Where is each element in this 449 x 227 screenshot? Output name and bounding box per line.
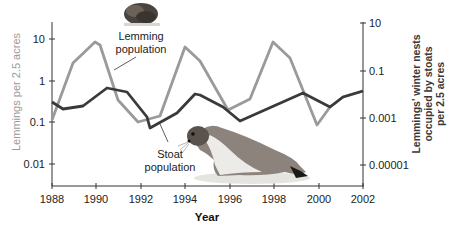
axes [49, 22, 366, 189]
lemming-label-line2: population [116, 43, 167, 55]
lemming-label-line1: Lemming [118, 30, 163, 42]
x-tick-labels: 1988 1990 1992 1994 1996 1998 2000 2002 [40, 193, 375, 205]
stoat-label-line1: Stoat [157, 148, 183, 160]
x-tick-2000: 2000 [307, 193, 331, 205]
right-y-axis-title: Lemmings' winter nests occupied by stoat… [410, 34, 446, 153]
left-y-tick-labels: 10 1 0.1 0.01 [24, 33, 45, 170]
stoat-label-line2: population [145, 161, 196, 173]
yl-tick-0.01: 0.01 [24, 158, 45, 170]
x-tick-1998: 1998 [262, 193, 286, 205]
x-tick-1994: 1994 [173, 193, 197, 205]
lemming-illustration [124, 3, 160, 26]
left-y-axis-title: Lemmings per 2.5 acres [10, 33, 22, 151]
right-y-tick-labels: 10 0.1 0.001 0.00001 [369, 17, 409, 171]
yl-tick-0.1: 0.1 [30, 116, 45, 128]
yr-tick-0.001: 0.001 [369, 112, 397, 124]
chart: 1988 1990 1992 1994 1996 1998 2000 2002 … [0, 0, 449, 227]
yl-tick-1: 1 [39, 75, 45, 87]
right-y-title-line3: per 2.5 acres [434, 62, 446, 126]
yr-tick-0.00001: 0.00001 [369, 159, 409, 171]
x-tick-1988: 1988 [40, 193, 64, 205]
right-y-title-line2: occupied by stoats [422, 46, 434, 141]
right-y-title-line1: Lemmings' winter nests [410, 34, 422, 153]
yr-tick-0.1: 0.1 [369, 65, 384, 77]
x-tick-1990: 1990 [84, 193, 108, 205]
x-tick-1992: 1992 [129, 193, 153, 205]
lemming-leader-line [114, 57, 136, 70]
x-tick-2002: 2002 [351, 193, 375, 205]
x-axis-title: Year [195, 211, 220, 223]
yr-tick-10: 10 [369, 17, 381, 29]
x-tick-1996: 1996 [218, 193, 242, 205]
stoat-leader-line [160, 124, 168, 142]
stoat-illustration [178, 126, 310, 184]
yl-tick-10: 10 [33, 33, 45, 45]
lemming-population-line [52, 42, 363, 125]
